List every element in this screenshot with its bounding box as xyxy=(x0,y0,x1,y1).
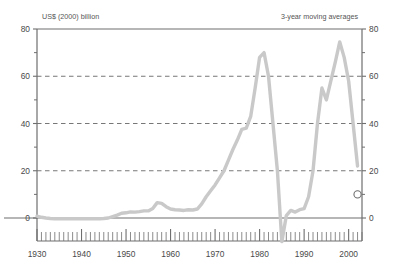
x-axis-label-1980: 1980 xyxy=(250,249,269,259)
x-axis-label-1930: 1930 xyxy=(28,249,47,259)
line-chart: 0020204040606080801930194019501960197019… xyxy=(0,0,400,274)
y-axis-label-left-80: 80 xyxy=(21,24,31,34)
y-axis-label-left-40: 40 xyxy=(21,119,31,129)
x-axis-label-1960: 1960 xyxy=(161,249,180,259)
x-axis-label-1990: 1990 xyxy=(295,249,314,259)
y-axis-label-right-20: 20 xyxy=(369,166,379,176)
y-axis-label-left-0: 0 xyxy=(25,213,30,223)
y-axis-label-right-0: 0 xyxy=(369,213,374,223)
end-point-marker xyxy=(354,191,361,198)
x-axis-label-1970: 1970 xyxy=(206,249,225,259)
y-axis-label-left-20: 20 xyxy=(21,166,31,176)
y-axis-label-right-80: 80 xyxy=(369,24,379,34)
chart-container: 0020204040606080801930194019501960197019… xyxy=(0,0,400,274)
y-axis-label-right-40: 40 xyxy=(369,119,379,129)
y-axis-label-right-60: 60 xyxy=(369,71,379,81)
moving-average-note: 3-year moving averages xyxy=(281,12,359,21)
x-axis-label-2000: 2000 xyxy=(339,249,358,259)
x-axis-label-1940: 1940 xyxy=(72,249,91,259)
x-axis-label-1950: 1950 xyxy=(117,249,136,259)
units-note: US$ (2000) billion xyxy=(42,12,99,21)
data-series-line xyxy=(37,42,358,242)
y-axis-label-left-60: 60 xyxy=(21,71,31,81)
